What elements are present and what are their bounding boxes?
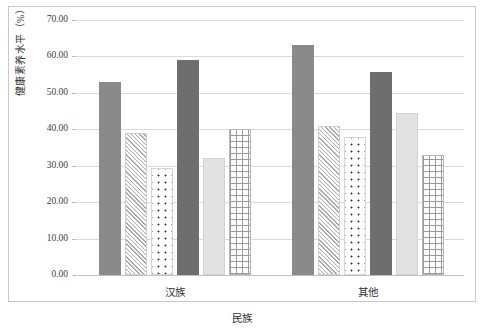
y-axis-tick-label: 0.00	[10, 269, 68, 279]
y-axis-tick-mark	[72, 20, 77, 21]
bar	[396, 113, 418, 275]
bar-chart: 健康素养水平（%） 0.0010.0020.0030.0040.0050.006…	[0, 0, 484, 331]
bar	[151, 168, 173, 275]
y-axis-tick-mark	[72, 129, 77, 130]
bar	[344, 137, 366, 275]
plot-area: 0.0010.0020.0030.0040.0050.0060.0070.00	[78, 20, 464, 275]
bar	[422, 155, 444, 275]
y-axis-tick-label: 70.00	[10, 14, 68, 24]
bar	[292, 45, 314, 275]
x-axis-tick-label: 其他	[271, 284, 464, 299]
bar	[229, 129, 251, 275]
bar	[99, 82, 121, 275]
y-axis-tick-label: 30.00	[10, 160, 68, 170]
y-axis-tick-mark	[72, 275, 77, 276]
y-axis-tick-label: 50.00	[10, 87, 68, 97]
gridline	[78, 56, 464, 57]
y-axis-tick-mark	[72, 202, 77, 203]
gridline	[78, 20, 464, 21]
x-axis-title: 民族	[0, 310, 484, 325]
y-axis-tick-mark	[72, 166, 77, 167]
gridline	[78, 275, 464, 276]
bar	[370, 72, 392, 275]
gridline	[78, 93, 464, 94]
bar	[177, 60, 199, 275]
y-axis-tick-label: 60.00	[10, 50, 68, 60]
y-axis-tick-mark	[72, 56, 77, 57]
x-axis-tick-label: 汉族	[78, 284, 271, 299]
bar	[125, 133, 147, 275]
y-axis-tick-mark	[72, 239, 77, 240]
y-axis-tick-label: 10.00	[10, 233, 68, 243]
y-axis-tick-label: 20.00	[10, 196, 68, 206]
y-axis-tick-label: 40.00	[10, 123, 68, 133]
bar	[203, 158, 225, 275]
bar	[318, 126, 340, 275]
y-axis-tick-mark	[72, 93, 77, 94]
